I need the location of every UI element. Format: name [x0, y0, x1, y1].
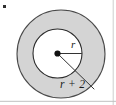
annulus-diagram: r r + 2 — [0, 0, 116, 105]
center-point-dot — [54, 50, 60, 56]
corner-speck-icon — [3, 5, 6, 8]
inner-radius-label: r — [71, 38, 76, 50]
geometry-figure: r r + 2 — [0, 0, 116, 105]
outer-radius-label: r + 2 — [60, 78, 85, 90]
